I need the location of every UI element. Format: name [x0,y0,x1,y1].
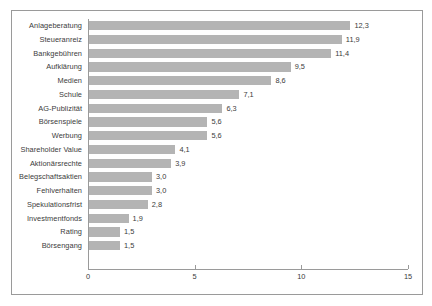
category-label: Rating [12,225,82,239]
bar [88,159,171,168]
y-axis-line [88,19,89,269]
bar [88,104,222,113]
x-axis-line [88,269,408,270]
bar-value-label: 9,5 [295,60,305,74]
bar-row: Investmentfonds1,9 [12,212,422,226]
category-label: Fehlverhalten [12,184,82,198]
x-tick-mark [195,265,196,269]
bar [88,227,120,236]
bar [88,214,129,223]
bar-row: Schule7,1 [12,88,422,102]
category-label: Belegschaftsaktien [12,170,82,184]
x-tick-label: 0 [86,272,90,281]
bar [88,21,350,30]
x-tick-mark [301,265,302,269]
bar [88,117,207,126]
bar [88,35,342,44]
bar-value-label: 1,5 [124,225,134,239]
category-label: Steueranreiz [12,33,82,47]
category-label: Investmentfonds [12,212,82,226]
bar [88,145,175,154]
bar [88,172,152,181]
bar-value-label: 3,0 [156,170,166,184]
bar-value-label: 3,9 [175,157,185,171]
bar-value-label: 6,3 [226,102,236,116]
bar-value-label: 11,9 [346,33,360,47]
bar-value-label: 1,5 [124,239,134,253]
category-label: Aktionärsrechte [12,157,82,171]
bar-value-label: 8,6 [275,74,285,88]
x-tick-label: 5 [193,272,197,281]
bar-row: Steueranreiz11,9 [12,33,422,47]
category-label: Werbung [12,129,82,143]
bar [88,90,239,99]
bar-value-label: 11,4 [335,47,349,61]
bar-row: AG-Publizität6,3 [12,102,422,116]
chart-frame: Anlageberatung12,3Steueranreiz11,9Bankge… [11,10,423,295]
bar-value-label: 12,3 [354,19,368,33]
category-label: Medien [12,74,82,88]
category-label: Schule [12,88,82,102]
bar-value-label: 1,9 [133,212,143,226]
bar-row: Rating1,5 [12,225,422,239]
bar-row: Werbung5,6 [12,129,422,143]
bar [88,186,152,195]
bar [88,76,271,85]
bar-row: Aktionärsrechte3,9 [12,157,422,171]
bar [88,62,291,71]
bar-row: Börsenspiele5,6 [12,115,422,129]
bar [88,200,148,209]
bar-row: Bankgebühren11,4 [12,47,422,61]
bar-row: Fehlverhalten3,0 [12,184,422,198]
bar [88,49,331,58]
category-label: Aufklärung [12,60,82,74]
category-label: Spekulationsfrist [12,198,82,212]
bar-value-label: 5,6 [211,115,221,129]
x-tick-mark [408,265,409,269]
x-tick-label: 10 [297,272,305,281]
bar-value-label: 4,1 [179,143,189,157]
bar-value-label: 7,1 [243,88,253,102]
bar-row: Shareholder Value4,1 [12,143,422,157]
category-label: Börsengang [12,239,82,253]
bar-row: Börsengang1,5 [12,239,422,253]
x-tick-label: 15 [404,272,412,281]
bar-row: Aufklärung9,5 [12,60,422,74]
bar [88,241,120,250]
bar [88,131,207,140]
bar-row: Spekulationsfrist2,8 [12,198,422,212]
bar-row: Medien8,6 [12,74,422,88]
bar-row: Anlageberatung12,3 [12,19,422,33]
category-label: Shareholder Value [12,143,82,157]
bar-value-label: 2,8 [152,198,162,212]
bar-value-label: 3,0 [156,184,166,198]
category-label: AG-Publizität [12,102,82,116]
bar-value-label: 5,6 [211,129,221,143]
category-label: Börsenspiele [12,115,82,129]
chart-plot-area: Anlageberatung12,3Steueranreiz11,9Bankge… [12,11,422,294]
x-tick-mark [88,265,89,269]
category-label: Anlageberatung [12,19,82,33]
category-label: Bankgebühren [12,47,82,61]
bar-row: Belegschaftsaktien3,0 [12,170,422,184]
